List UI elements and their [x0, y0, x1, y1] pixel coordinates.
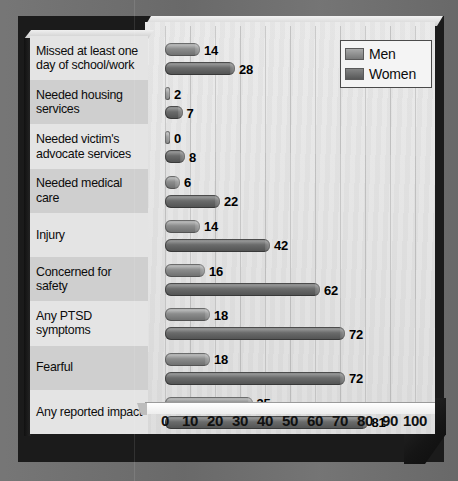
x-tick-label-20: 20 — [207, 412, 223, 429]
x-tick-label-90: 90 — [382, 412, 398, 429]
chart-legend: Men Women — [340, 40, 432, 88]
category-label: Needed housing services — [36, 88, 145, 117]
category-row: Needed victim's advocate services — [30, 124, 148, 168]
men-swatch-icon — [345, 48, 364, 60]
x-tick-label-80: 80 — [357, 412, 373, 429]
category-row: Any PTSD symptoms — [30, 301, 148, 345]
legend-item-women: Women — [345, 64, 427, 84]
x-tick-label-0: 0 — [161, 412, 169, 429]
x-tick-label-30: 30 — [232, 412, 248, 429]
category-label: Needed victim's advocate services — [36, 132, 145, 161]
legend-label-women: Women — [369, 66, 416, 82]
category-label: Missed at least one day of school/work — [36, 44, 145, 73]
legend-label-men: Men — [369, 46, 396, 62]
category-row: Needed housing services — [30, 80, 148, 124]
legend-item-men: Men — [345, 44, 427, 64]
x-tick-label-10: 10 — [182, 412, 198, 429]
category-label: Injury — [36, 228, 65, 242]
x-tick-label-70: 70 — [332, 412, 348, 429]
category-label: Any PTSD symptoms — [36, 309, 145, 338]
category-label-panel: Missed at least one day of school/workNe… — [30, 36, 148, 434]
x-axis-tick-labels: 0102030405060708090100 — [145, 412, 445, 436]
category-row: Fearful — [30, 346, 148, 390]
x-tick-label-60: 60 — [307, 412, 323, 429]
x-tick-label-100: 100 — [403, 412, 427, 429]
category-label: Concerned for safety — [36, 265, 145, 294]
category-label: Any reported impact — [36, 405, 142, 419]
category-row: Concerned for safety — [30, 257, 148, 301]
category-label: Needed medical care — [36, 176, 145, 205]
x-tick-label-40: 40 — [257, 412, 273, 429]
category-row: Needed medical care — [30, 169, 148, 213]
category-label: Fearful — [36, 360, 73, 374]
x-tick-label-50: 50 — [282, 412, 298, 429]
women-swatch-icon — [345, 68, 364, 80]
category-row: Injury — [30, 213, 148, 257]
chart-backdrop: Missed at least one day of school/workNe… — [0, 0, 458, 481]
category-row: Any reported impact — [30, 390, 148, 434]
category-row: Missed at least one day of school/work — [30, 36, 148, 80]
